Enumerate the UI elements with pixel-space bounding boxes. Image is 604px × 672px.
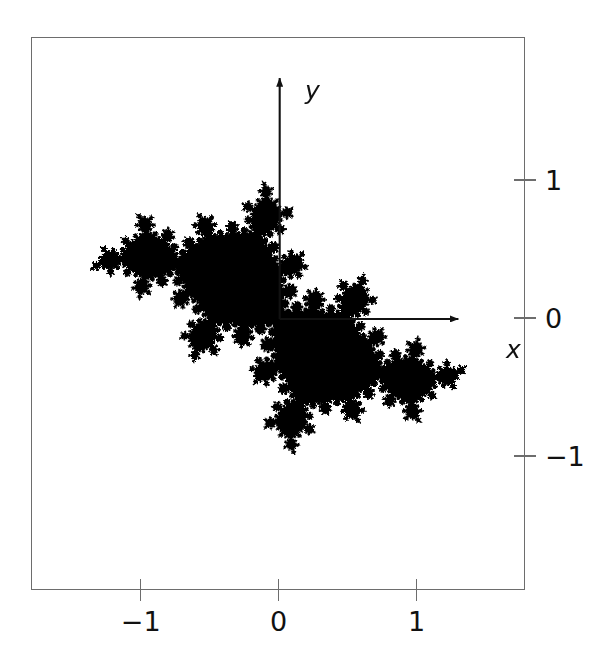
x-tick-mark-minus1 xyxy=(140,579,141,601)
y-axis-label: y xyxy=(305,78,320,103)
x-tick-label-1: 1 xyxy=(408,608,425,635)
y-tick-mark-0 xyxy=(514,317,536,318)
x-tick-label-minus1: −1 xyxy=(121,608,161,635)
y-tick-label-minus1: −1 xyxy=(545,443,585,470)
x-tick-label-0: 0 xyxy=(270,608,287,635)
y-tick-label-0: 0 xyxy=(545,304,562,331)
y-tick-mark-1 xyxy=(514,179,536,180)
julia-set-canvas xyxy=(32,38,524,589)
y-tick-label-1: 1 xyxy=(545,166,562,193)
x-tick-mark-0 xyxy=(278,579,279,601)
y-tick-mark-minus1 xyxy=(514,455,536,456)
plot-frame: y x xyxy=(31,37,525,590)
x-tick-mark-1 xyxy=(416,579,417,601)
julia-set-figure: y x 1 0 −1 −1 0 1 xyxy=(0,0,604,672)
x-axis-label: x xyxy=(506,337,521,362)
